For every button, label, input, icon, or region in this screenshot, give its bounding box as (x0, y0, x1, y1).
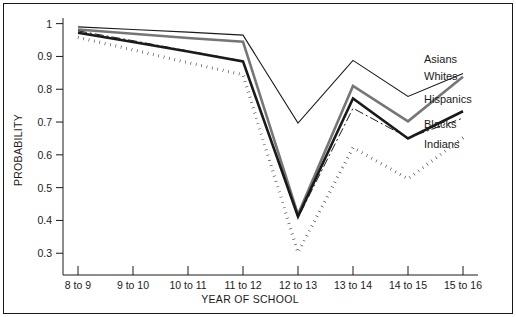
x-axis: 8 to 99 to 1010 to 1111 to 1212 to 1313 … (63, 266, 482, 305)
x-tick-label: 13 to 14 (334, 279, 372, 291)
y-tick-label: 0.5 (37, 182, 52, 194)
series-line-indians (78, 37, 463, 252)
series-line-whites (78, 30, 463, 215)
chart-legend: AsiansWhitesHispanicsBlacksIndians (424, 53, 472, 150)
x-tick-label: 15 to 16 (444, 279, 482, 291)
y-tick-label: 0.3 (37, 247, 52, 259)
x-tick-label: 11 to 12 (224, 279, 261, 291)
line-chart-plot: 0.30.40.50.60.70.80.91 PROBABILITY 8 to … (0, 0, 516, 317)
x-axis-ticks: 8 to 99 to 1010 to 1111 to 1212 to 1313 … (65, 266, 482, 291)
y-tick-label: 0.7 (37, 116, 52, 128)
y-axis-title: PROBABILITY (12, 114, 24, 186)
legend-label-hispanics: Hispanics (424, 93, 472, 105)
data-series-group (78, 27, 463, 253)
y-tick-label: 0.8 (37, 83, 52, 95)
y-tick-label: 1 (46, 18, 52, 30)
y-tick-label: 0.9 (37, 50, 52, 62)
y-tick-label: 0.4 (37, 214, 52, 226)
legend-label-indians: Indians (424, 138, 460, 150)
x-axis-title: YEAR OF SCHOOL (201, 293, 299, 305)
legend-label-asians: Asians (424, 53, 458, 65)
y-tick-label: 0.6 (37, 149, 52, 161)
y-axis: 0.30.40.50.60.70.80.91 PROBABILITY (12, 18, 63, 275)
x-tick-label: 12 to 13 (279, 279, 317, 291)
legend-label-whites: Whites (424, 70, 458, 82)
x-tick-label: 14 to 15 (389, 279, 427, 291)
x-tick-label: 10 to 11 (169, 279, 206, 291)
x-tick-label: 8 to 9 (65, 279, 91, 291)
y-axis-ticks: 0.30.40.50.60.70.80.91 (37, 18, 63, 260)
legend-label-blacks: Blacks (424, 118, 457, 130)
chart-figure: 0.30.40.50.60.70.80.91 PROBABILITY 8 to … (0, 0, 516, 317)
x-tick-label: 9 to 10 (117, 279, 149, 291)
